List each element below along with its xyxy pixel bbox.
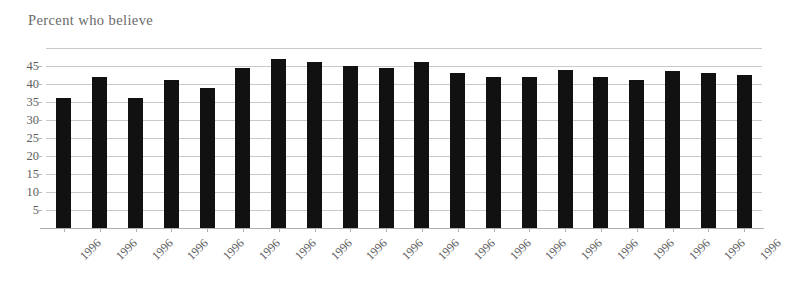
bar[interactable] xyxy=(701,73,716,228)
bar[interactable] xyxy=(128,98,143,228)
x-axis-tick-mark xyxy=(171,228,172,232)
x-axis-tick-label: 1996 xyxy=(435,236,463,264)
x-axis-tick-label: 1996 xyxy=(77,236,105,264)
bar[interactable] xyxy=(450,73,465,228)
y-axis-tick-mark xyxy=(36,102,42,103)
bar[interactable] xyxy=(414,62,429,228)
y-axis: 51015202530354045 xyxy=(0,48,42,228)
x-axis-tick-mark xyxy=(243,228,244,232)
x-axis-tick-mark xyxy=(708,228,709,232)
bar[interactable] xyxy=(56,98,71,228)
y-axis-tick-mark xyxy=(36,66,42,67)
bar[interactable] xyxy=(558,70,573,228)
bar[interactable] xyxy=(200,88,215,228)
bar[interactable] xyxy=(164,80,179,228)
x-axis-tick-mark xyxy=(637,228,638,232)
x-axis-tick-mark xyxy=(207,228,208,232)
y-axis-tick-mark xyxy=(36,120,42,121)
x-axis-tick-label: 1996 xyxy=(721,236,749,264)
x-axis-tick-mark xyxy=(529,228,530,232)
x-axis-tick-mark xyxy=(136,228,137,232)
x-axis-tick-mark xyxy=(494,228,495,232)
y-axis-tick-mark xyxy=(36,156,42,157)
x-axis-tick-mark xyxy=(386,228,387,232)
x-axis-tick-mark xyxy=(315,228,316,232)
bar[interactable] xyxy=(235,68,250,228)
bar[interactable] xyxy=(271,59,286,228)
x-axis-tick-label: 1996 xyxy=(292,236,320,264)
x-axis: 1996199619961996199619961996199619961996… xyxy=(0,228,772,286)
x-axis-tick-label: 1996 xyxy=(471,236,499,264)
x-axis-tick-label: 1996 xyxy=(149,236,177,264)
bars-layer xyxy=(46,48,762,228)
x-axis-tick-mark xyxy=(458,228,459,232)
chart-title: Percent who believe xyxy=(28,12,153,29)
x-axis-tick-mark xyxy=(744,228,745,232)
x-axis-tick-label: 1996 xyxy=(542,236,570,264)
x-axis-tick-label: 1996 xyxy=(757,236,785,264)
bar[interactable] xyxy=(665,71,680,228)
x-axis-tick-label: 1996 xyxy=(328,236,356,264)
x-axis-tick-mark xyxy=(100,228,101,232)
x-axis-tick-label: 1996 xyxy=(578,236,606,264)
x-axis-tick-label: 1996 xyxy=(256,236,284,264)
y-axis-tick-mark xyxy=(36,210,42,211)
x-axis-tick-mark xyxy=(422,228,423,232)
x-axis-tick-mark xyxy=(350,228,351,232)
bar[interactable] xyxy=(343,66,358,228)
x-axis-tick-label: 1996 xyxy=(399,236,427,264)
x-axis-tick-mark xyxy=(565,228,566,232)
bar[interactable] xyxy=(593,77,608,228)
x-axis-tick-label: 1996 xyxy=(507,236,535,264)
bar[interactable] xyxy=(307,62,322,228)
bar[interactable] xyxy=(522,77,537,228)
bar[interactable] xyxy=(486,77,501,228)
x-axis-tick-mark xyxy=(601,228,602,232)
x-axis-tick-mark xyxy=(279,228,280,232)
x-axis-tick-label: 1996 xyxy=(184,236,212,264)
x-axis-tick-label: 1996 xyxy=(650,236,678,264)
bar[interactable] xyxy=(379,68,394,228)
x-axis-tick-label: 1996 xyxy=(113,236,141,264)
x-axis-tick-label: 1996 xyxy=(220,236,248,264)
y-axis-tick-mark xyxy=(36,138,42,139)
x-axis-tick-mark xyxy=(673,228,674,232)
y-axis-tick-mark xyxy=(36,174,42,175)
y-axis-tick-mark xyxy=(36,192,42,193)
bar[interactable] xyxy=(629,80,644,228)
x-axis-tick-label: 1996 xyxy=(363,236,391,264)
x-axis-tick-label: 1996 xyxy=(686,236,714,264)
bar[interactable] xyxy=(92,77,107,228)
x-axis-tick-label: 1996 xyxy=(614,236,642,264)
y-axis-tick-mark xyxy=(36,84,42,85)
x-axis-tick-mark xyxy=(64,228,65,232)
bar[interactable] xyxy=(737,75,752,228)
